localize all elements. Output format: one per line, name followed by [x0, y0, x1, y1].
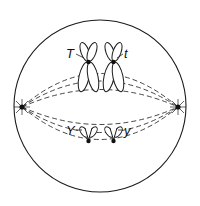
allele-label-t: t	[124, 46, 129, 61]
spindle-fibers	[22, 74, 178, 140]
centrosome	[175, 104, 180, 109]
chromosome-upper-right	[101, 41, 126, 92]
spindle-fiber	[22, 107, 178, 140]
centromere	[111, 60, 115, 64]
centrosome	[19, 104, 24, 109]
centromere	[86, 60, 90, 64]
spindle-fiber	[22, 90, 178, 108]
spindle-fiber	[22, 107, 178, 133]
spindle-fiber	[22, 74, 178, 108]
chromosome-lower-right	[103, 125, 124, 143]
left-pole	[14, 99, 30, 115]
cell-diagram: T t Y y	[0, 0, 200, 206]
cell-membrane	[14, 20, 186, 192]
allele-label-y: y	[123, 123, 132, 138]
centromere	[86, 139, 90, 143]
chromosome-lower-left	[78, 125, 99, 143]
allele-label-T: T	[66, 46, 75, 61]
allele-label-Y: Y	[66, 123, 76, 138]
spindle-fiber	[22, 81, 178, 107]
right-pole	[170, 99, 186, 115]
chromosome-upper-left	[76, 41, 101, 92]
centromere	[111, 139, 115, 143]
spindle-fiber	[22, 107, 178, 125]
